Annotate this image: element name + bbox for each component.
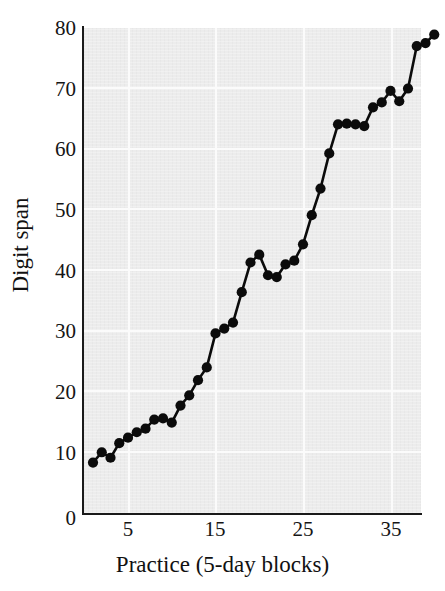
data-point bbox=[412, 41, 422, 51]
data-point bbox=[359, 121, 369, 131]
data-point bbox=[132, 427, 142, 437]
data-point bbox=[123, 433, 133, 443]
data-point bbox=[368, 102, 378, 112]
data-point bbox=[175, 400, 185, 410]
data-point bbox=[429, 29, 439, 39]
data-point bbox=[202, 362, 212, 372]
data-point bbox=[324, 148, 334, 158]
data-point bbox=[280, 259, 290, 269]
data-point bbox=[385, 86, 395, 96]
data-point bbox=[342, 119, 352, 129]
data-point bbox=[350, 119, 360, 129]
data-point bbox=[272, 272, 282, 282]
data-point bbox=[298, 239, 308, 249]
data-point bbox=[219, 323, 229, 333]
data-point bbox=[315, 183, 325, 193]
data-point bbox=[245, 257, 255, 267]
data-point bbox=[333, 119, 343, 129]
data-point bbox=[88, 457, 98, 467]
data-point bbox=[237, 287, 247, 297]
data-point bbox=[158, 413, 168, 423]
data-point bbox=[167, 417, 177, 427]
digit-span-chart: 80 70 60 50 40 30 20 10 0 5 15 25 35 Dig… bbox=[0, 0, 445, 591]
data-point bbox=[114, 438, 124, 448]
data-point bbox=[263, 270, 273, 280]
data-point bbox=[228, 317, 238, 327]
data-point bbox=[403, 83, 413, 93]
data-point bbox=[254, 250, 264, 260]
data-point bbox=[193, 375, 203, 385]
data-point bbox=[289, 256, 299, 266]
data-point bbox=[377, 97, 387, 107]
data-point bbox=[420, 38, 430, 48]
data-point bbox=[394, 96, 404, 106]
data-series-layer bbox=[0, 0, 445, 591]
data-point bbox=[307, 210, 317, 220]
data-point bbox=[140, 424, 150, 434]
data-point bbox=[184, 390, 194, 400]
data-point bbox=[105, 453, 115, 463]
data-point bbox=[210, 328, 220, 338]
data-point bbox=[97, 447, 107, 457]
data-point bbox=[149, 414, 159, 424]
